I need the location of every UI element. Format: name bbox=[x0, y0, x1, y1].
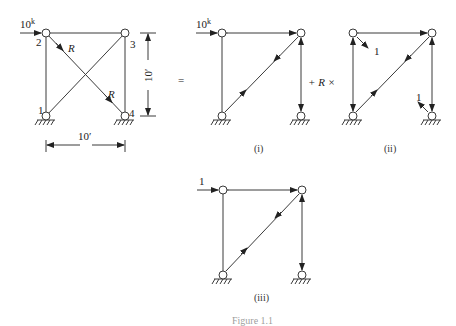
node-4-label: 4 bbox=[129, 107, 135, 119]
case-i-caption: (i) bbox=[254, 143, 263, 155]
redundant-label: R bbox=[107, 88, 115, 100]
case-iii-caption: (iii) bbox=[254, 292, 269, 304]
svg-text:10k: 10k bbox=[20, 17, 35, 30]
truss-diagram: 10k 2 3 1 4 R R 10′ 10′ = 10k (i) + bbox=[0, 0, 456, 326]
case-i-truss: 10k (i) bbox=[196, 17, 310, 155]
load-label: 10 bbox=[196, 18, 208, 30]
unit-load-arrow-icon bbox=[418, 102, 428, 112]
node-2 bbox=[42, 29, 50, 37]
unit-load-label: 1 bbox=[199, 175, 205, 187]
force-arrow-icon bbox=[274, 55, 280, 61]
height-dimension: 10′ bbox=[142, 69, 154, 82]
figure-caption: Figure 1.1 bbox=[232, 315, 273, 326]
width-dimension: 10′ bbox=[78, 130, 91, 142]
case-ii-caption: (ii) bbox=[384, 143, 396, 155]
case-iii-truss: 1 (iii) bbox=[197, 175, 311, 304]
node-3 bbox=[121, 29, 129, 37]
pin-support-icon bbox=[35, 120, 55, 125]
load-unit: k bbox=[31, 17, 35, 26]
plus-r-times: + R × bbox=[308, 76, 335, 88]
node-4 bbox=[121, 112, 129, 120]
node-2-label: 2 bbox=[36, 36, 42, 48]
node-3-label: 3 bbox=[130, 38, 136, 50]
unit-load-label: 1 bbox=[374, 45, 380, 57]
load-unit: k bbox=[207, 17, 211, 26]
case-ii-truss: 1 1 (ii) bbox=[342, 29, 441, 155]
pin-support-icon bbox=[114, 120, 134, 125]
main-truss: 10k 2 3 1 4 R R 10′ 10′ bbox=[20, 17, 156, 152]
unit-load-arrow-icon bbox=[357, 37, 368, 48]
force-arrow-icon bbox=[240, 90, 246, 96]
unit-load-label: 1 bbox=[416, 91, 422, 103]
equals-sign: = bbox=[178, 74, 184, 86]
node-1-label: 1 bbox=[38, 104, 44, 116]
svg-text:10k: 10k bbox=[196, 17, 211, 30]
redundant-label: R bbox=[67, 42, 75, 54]
load-label: 10 bbox=[20, 18, 32, 30]
redundant-arrow-icon bbox=[56, 43, 63, 51]
